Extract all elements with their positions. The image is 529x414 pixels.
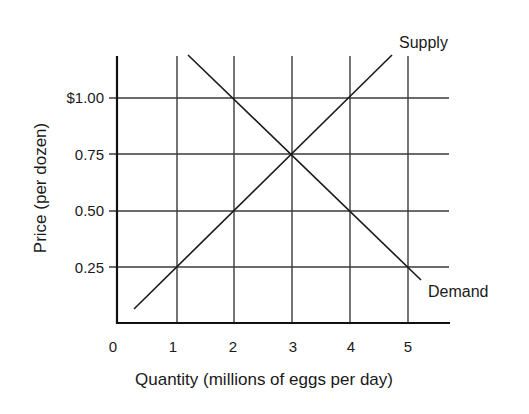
demand-label: Demand bbox=[428, 283, 488, 300]
demand-curve bbox=[188, 55, 421, 280]
vertical-gridlines bbox=[177, 56, 408, 323]
y-tick-0.50: 0.50 bbox=[75, 202, 104, 219]
x-tick-4: 4 bbox=[347, 338, 355, 355]
y-tick-0.25: 0.25 bbox=[75, 259, 104, 276]
y-tick-1.00: $1.00 bbox=[66, 89, 104, 106]
x-axis-title: Quantity (millions of eggs per day) bbox=[135, 370, 393, 389]
y-tick-0.75: 0.75 bbox=[75, 146, 104, 163]
x-tick-5: 5 bbox=[404, 338, 412, 355]
y-axis-title: Price (per dozen) bbox=[31, 123, 50, 253]
x-tick-0: 0 bbox=[109, 338, 117, 355]
horizontal-gridlines bbox=[109, 98, 449, 267]
x-tick-3: 3 bbox=[289, 338, 297, 355]
supply-demand-chart: Supply Demand $1.00 0.75 0.50 0.25 0 1 2… bbox=[0, 0, 529, 414]
supply-label: Supply bbox=[399, 34, 448, 51]
x-tick-1: 1 bbox=[169, 338, 177, 355]
x-tick-2: 2 bbox=[229, 338, 237, 355]
supply-curve bbox=[134, 55, 392, 309]
